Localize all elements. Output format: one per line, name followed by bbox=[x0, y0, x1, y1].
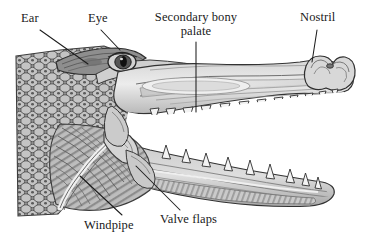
anatomy-figure: Ear Eye Secondary bony palate Nostril Wi… bbox=[0, 0, 367, 244]
label-ear: Ear bbox=[21, 12, 39, 26]
label-eye: Eye bbox=[88, 12, 108, 26]
label-nostril: Nostril bbox=[300, 11, 335, 25]
label-valve-flaps: Valve flaps bbox=[160, 213, 217, 227]
label-secondary-bony-palate: Secondary bony palate bbox=[144, 11, 248, 38]
label-windpipe: Windpipe bbox=[84, 219, 134, 233]
